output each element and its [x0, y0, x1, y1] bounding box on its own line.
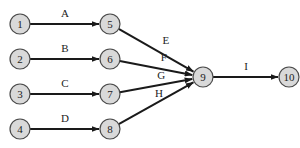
node-1: 1 [10, 14, 30, 34]
edge-label: I [244, 60, 248, 72]
node-5: 5 [100, 14, 120, 34]
edge-c: C [30, 77, 99, 94]
edge-h: H [119, 82, 194, 124]
edges-layer: ABCDEFGHI [30, 7, 278, 129]
node-3: 3 [10, 84, 30, 104]
node-10: 10 [279, 67, 299, 87]
edge-b: B [30, 42, 99, 59]
node-2: 2 [10, 49, 30, 69]
node-label: 2 [17, 53, 23, 65]
node-4: 4 [10, 119, 30, 139]
edge-label: G [157, 69, 165, 81]
node-label: 10 [284, 71, 296, 83]
node-label: 4 [17, 123, 23, 135]
edge-label: H [155, 87, 163, 99]
network-diagram: ABCDEFGHI 12345678910 [0, 0, 300, 148]
node-7: 7 [100, 84, 120, 104]
edge-i: I [213, 60, 278, 77]
arrow-line [119, 29, 194, 72]
edge-label: A [61, 7, 69, 19]
node-label: 9 [200, 71, 206, 83]
edge-a: A [30, 7, 99, 24]
edge-label: B [61, 42, 68, 54]
node-8: 8 [100, 119, 120, 139]
edge-d: D [30, 112, 99, 129]
edge-e: E [119, 29, 194, 72]
node-label: 5 [107, 18, 113, 30]
edge-label: F [161, 51, 167, 63]
node-6: 6 [100, 49, 120, 69]
node-label: 8 [107, 123, 113, 135]
edge-label: C [61, 77, 68, 89]
node-label: 3 [17, 88, 23, 100]
edge-f: F [120, 51, 192, 75]
node-label: 6 [107, 53, 113, 65]
arrow-line [120, 61, 192, 75]
node-label: 7 [107, 88, 113, 100]
node-9: 9 [193, 67, 213, 87]
edge-label: E [163, 34, 170, 46]
edge-label: D [61, 112, 69, 124]
node-label: 1 [17, 18, 23, 30]
